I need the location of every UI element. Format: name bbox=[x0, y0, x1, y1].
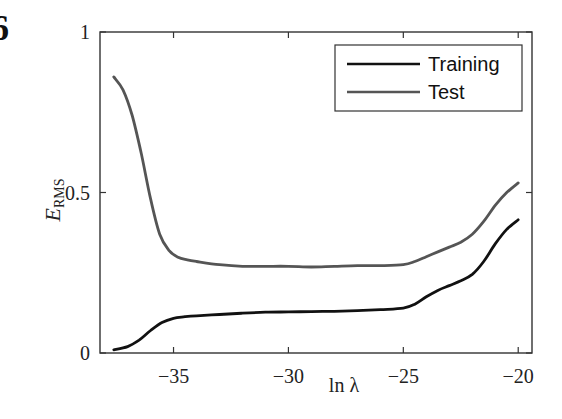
x-tick-label: −25 bbox=[388, 365, 419, 387]
y-tick-label: 1 bbox=[80, 21, 90, 43]
y-axis-label-sub: RMS bbox=[52, 178, 67, 208]
series-layer bbox=[114, 77, 518, 350]
x-axis-label: ln λ bbox=[329, 374, 360, 396]
panel-marker: 6 bbox=[0, 8, 9, 48]
x-tick-label: −35 bbox=[158, 365, 189, 387]
series-line-training bbox=[114, 220, 518, 350]
line-chart: 6 −35−30−25−20 00.51 ln λ ERMS Training … bbox=[0, 0, 562, 419]
x-tick-label: −20 bbox=[503, 365, 534, 387]
y-axis-label: ERMS bbox=[40, 178, 67, 222]
legend-label-training: Training bbox=[428, 53, 500, 75]
x-tick-label: −30 bbox=[273, 365, 304, 387]
legend-label-test: Test bbox=[428, 81, 465, 103]
legend: Training Test bbox=[335, 45, 522, 111]
y-axis-label-main: E bbox=[40, 208, 65, 223]
y-tick-label: 0 bbox=[80, 342, 90, 364]
y-tick-label: 0.5 bbox=[65, 182, 90, 204]
svg-text:ERMS: ERMS bbox=[40, 178, 67, 222]
